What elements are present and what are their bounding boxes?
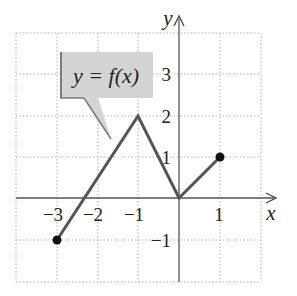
callout-label: y = f(x) xyxy=(71,63,139,88)
y-tick-label: 3 xyxy=(162,64,172,85)
y-axis-label: y xyxy=(161,6,173,30)
x-tick-label: −1 xyxy=(124,204,144,225)
y-axis xyxy=(174,16,184,282)
y-tick-label: −1 xyxy=(151,230,171,251)
x-axis xyxy=(16,193,276,203)
y-tick-label: 2 xyxy=(162,106,172,127)
x-tick-label: −2 xyxy=(83,204,103,225)
right-endpoint xyxy=(216,153,225,162)
x-tick-label: −3 xyxy=(43,204,63,225)
x-axis-label: x xyxy=(265,201,276,225)
function-graph: y = f(x) −3 −2 −1 1 3 2 1 −1 x y xyxy=(0,0,297,296)
y-tick-label: 1 xyxy=(162,147,172,168)
function-callout: y = f(x) xyxy=(60,52,153,139)
x-tick-label: 1 xyxy=(214,204,224,225)
left-endpoint xyxy=(53,236,62,245)
